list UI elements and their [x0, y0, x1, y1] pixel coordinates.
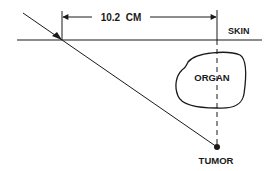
measurement-label: 10.2 CM: [101, 12, 142, 23]
oblique-beam-path: [23, 13, 217, 147]
tumor-dot: [214, 144, 220, 150]
beam-entry-arrow-icon: [52, 32, 62, 40]
organ-label: ORGAN: [194, 72, 230, 83]
tumor-label: TUMOR: [199, 155, 234, 166]
diagram-canvas: 10.2 CM SKIN ORGAN TUMOR: [0, 0, 270, 171]
skin-label: SKIN: [228, 26, 250, 36]
